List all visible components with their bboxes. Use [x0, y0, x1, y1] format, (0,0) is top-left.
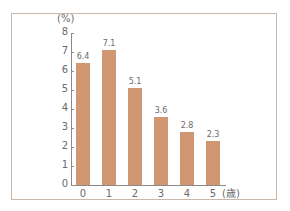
bar: [154, 117, 168, 185]
x-tick-label: 0: [76, 189, 90, 199]
bar-value-label: 2.8: [175, 122, 199, 130]
y-tick-mark: [72, 185, 74, 186]
y-tick-label: 1: [56, 160, 68, 170]
y-tick-label: 3: [56, 122, 68, 132]
y-axis-unit-label: (%): [57, 14, 74, 24]
bar-value-label: 5.1: [123, 78, 147, 86]
y-tick-mark: [72, 109, 74, 110]
y-tick-mark: [72, 166, 74, 167]
bar-value-label: 2.3: [201, 131, 225, 139]
bar: [128, 88, 142, 185]
y-tick-label: 5: [56, 84, 68, 94]
x-axis-unit-label: (歳): [222, 189, 240, 199]
y-tick-label: 6: [56, 65, 68, 75]
bar: [102, 50, 116, 185]
bar-value-label: 3.6: [149, 107, 173, 115]
y-tick-mark: [72, 90, 74, 91]
y-tick-label: 8: [56, 27, 68, 37]
y-tick-label: 0: [56, 179, 68, 189]
x-tick-label: 5: [206, 189, 220, 199]
x-tick-label: 4: [180, 189, 194, 199]
bar: [76, 63, 90, 185]
y-tick-label: 7: [56, 46, 68, 56]
x-tick-label: 3: [154, 189, 168, 199]
y-tick-label: 2: [56, 141, 68, 151]
y-tick-mark: [72, 71, 74, 72]
x-tick-label: 2: [128, 189, 142, 199]
y-tick-label: 4: [56, 103, 68, 113]
bar: [180, 132, 194, 185]
x-axis-line: [71, 185, 226, 186]
bar-value-label: 6.4: [71, 53, 95, 61]
x-tick-label: 1: [102, 189, 116, 199]
bar: [206, 141, 220, 185]
y-tick-mark: [72, 147, 74, 148]
y-tick-mark: [72, 33, 74, 34]
y-tick-mark: [72, 128, 74, 129]
bar-value-label: 7.1: [97, 40, 121, 48]
bar-chart: (%) 012345678 6.47.15.13.62.82.3 012345 …: [0, 0, 290, 211]
